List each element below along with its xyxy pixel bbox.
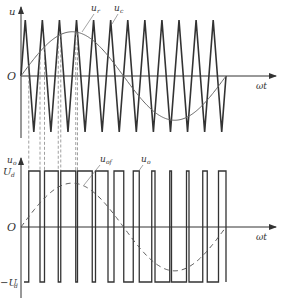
positive-level-label: U d [3, 166, 15, 178]
bottom-y-axis-label: u o [7, 155, 17, 166]
fundamental-label: u of [100, 154, 114, 166]
top-x-axis-label: ωt [256, 81, 267, 91]
svg-text:c: c [120, 7, 124, 14]
svg-text:r: r [97, 7, 101, 14]
top-origin-label: O [7, 70, 16, 83]
top-y-axis-label: u [9, 6, 15, 17]
bottom-plot: u o U d O −U d ωt u of u o [0, 154, 276, 298]
top-plot: u O ωt u r u c [7, 3, 276, 138]
negative-level-label: −U d [0, 277, 18, 289]
output-leader-line [138, 165, 143, 172]
carrier-label: u c [114, 3, 124, 14]
reference-label: u r [91, 3, 101, 14]
svg-text:d: d [14, 282, 18, 289]
bottom-origin-label: O [7, 221, 16, 234]
svg-text:o: o [147, 158, 151, 165]
bottom-x-axis-label: ωt [256, 232, 267, 242]
svg-text:of: of [106, 158, 114, 166]
svg-text:o: o [13, 159, 17, 166]
carrier-leader-line [112, 14, 118, 24]
output-label: u o [141, 154, 151, 165]
spwm-diagram: u O ωt u r u c u o U d O −U d [0, 0, 282, 301]
svg-text:d: d [11, 171, 15, 178]
